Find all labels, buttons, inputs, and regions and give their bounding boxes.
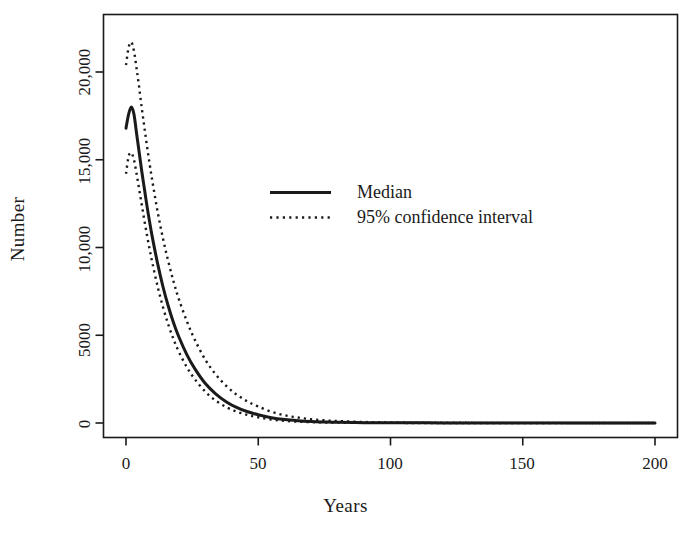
ytick-label-15000: 15,000 [75, 109, 95, 213]
xtick-label-50: 50 [228, 454, 288, 474]
legend-label-median: Median [357, 182, 412, 203]
xtick-label-200: 200 [625, 454, 685, 474]
xtick-label-100: 100 [360, 454, 420, 474]
figure-container: 0 5000 10,000 15,000 20,000 0 50 100 150… [0, 0, 691, 535]
legend-label-confidence-interval: 95% confidence interval [357, 207, 533, 228]
ytick-label-5000: 5000 [75, 296, 95, 384]
ytick-label-20000: 20,000 [75, 20, 95, 124]
ytick-label-0: 0 [75, 394, 95, 454]
xtick-label-150: 150 [492, 454, 552, 474]
x-axis-title: Years [0, 495, 691, 517]
y-axis-title: Number [7, 174, 29, 284]
xtick-label-0: 0 [96, 454, 156, 474]
